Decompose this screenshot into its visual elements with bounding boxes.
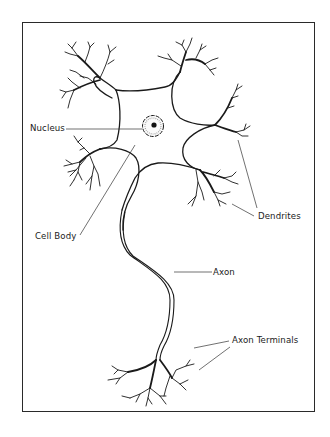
label-axon: Axon [213,268,235,277]
label-nucleus: Nucleus [30,124,65,133]
cell-body-outline [94,72,215,230]
label-cell-body: Cell Body [35,232,76,241]
nucleus-graphic [143,116,164,137]
dendrites-right [215,84,250,136]
leader-lines [66,129,257,370]
axon-shaft [120,210,174,360]
dendrites-lower-left [64,136,100,190]
dendrites-lower-right [188,170,238,206]
label-axon-terminals: Axon Terminals [232,336,298,345]
label-dendrites: Dendrites [258,212,301,221]
dendrites-upper-left [60,42,116,108]
dendrites-upper-right [158,38,218,75]
axon-terminals-graphic [108,360,194,406]
